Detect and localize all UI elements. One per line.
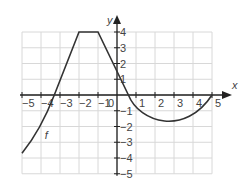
y-tick-label: −2 [120, 121, 133, 133]
x-tick-label: 3 [177, 97, 183, 109]
y-tick-label: 2 [120, 58, 126, 70]
x-tick-label: 1 [139, 97, 145, 109]
graph-canvas: −5−4−3−2−10123454321−1−2−3−4−5 f x y [0, 0, 239, 192]
x-tick-label: 5 [215, 97, 221, 109]
x-tick-label: 0 [108, 97, 114, 109]
y-tick-label: −4 [120, 152, 133, 164]
x-tick-label: −2 [79, 97, 92, 109]
function-label: f [45, 129, 49, 141]
y-axis-label: y [106, 14, 114, 26]
y-tick-label: 4 [120, 26, 126, 38]
y-tick-label: 3 [120, 42, 126, 54]
y-tick-label: −3 [120, 136, 133, 148]
x-axis-arrow-icon [222, 91, 232, 99]
y-tick-label: −5 [120, 168, 133, 180]
x-tick-label: 2 [158, 97, 164, 109]
y-tick-label: −1 [120, 105, 133, 117]
x-tick-label: −3 [60, 97, 73, 109]
y-axis-arrow-icon [113, 15, 121, 24]
x-tick-label: −5 [22, 97, 35, 109]
function-graph: −5−4−3−2−10123454321−1−2−3−4−5 f x y [0, 0, 239, 192]
x-axis-label: x [231, 79, 238, 91]
